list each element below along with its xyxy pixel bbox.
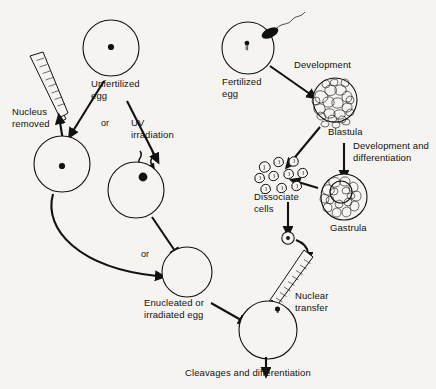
- label-cleavages-and-differentiation: Cleavages and differentiation: [185, 367, 311, 379]
- gastrula-cell-mass: [320, 174, 367, 220]
- arrow-uv-to-recipient: [152, 217, 175, 251]
- label-dissociate-cells: Dissociate cells: [254, 191, 299, 214]
- unfertilized-egg-cell: [83, 20, 139, 76]
- nucleus-dot: [108, 44, 114, 50]
- nucleus-dot: [59, 163, 65, 169]
- label-or-first: or: [101, 118, 109, 130]
- donor-cell: [282, 232, 294, 244]
- label-development: Development: [294, 59, 351, 71]
- label-gastrula: Gastrula: [330, 222, 367, 234]
- label-fertilized-egg: Fertilized egg: [222, 76, 262, 99]
- label-unfertilized-egg: Unfertilized egg: [91, 78, 140, 101]
- label-blastula: Blastula: [328, 126, 363, 138]
- reconstructed-egg-cell: [239, 301, 297, 359]
- diagram-canvas: [0, 0, 436, 389]
- enucleation-egg-cell: [34, 136, 90, 192]
- label-nuclear-transfer: Nuclear transfer: [295, 290, 328, 313]
- nucleus-dot: [286, 236, 290, 240]
- label-nucleus-removed: Nucleus removed: [12, 106, 50, 129]
- uv-irradiated-egg-cell: [108, 162, 164, 218]
- arrow-recipient-to-reconstructed: [211, 303, 241, 320]
- blastula-cell-mass: [312, 78, 357, 128]
- nucleus-dot: [245, 41, 250, 46]
- label-or-second: or: [141, 249, 149, 261]
- enucleated-irradiated-egg-cell: [162, 247, 212, 297]
- label-enucleated-irradiated-egg: Enucleated or irradiated egg: [144, 297, 204, 320]
- sperm-icon: [260, 12, 305, 41]
- nucleus-dot: [275, 307, 280, 312]
- label-development-and-differentiation: Development and differentiation: [353, 140, 429, 163]
- nuclear-transfer-diagram: Unfertilized egg Nucleus removed or UV i…: [0, 0, 436, 389]
- fertilized-egg-cell: [222, 22, 274, 74]
- nucleus-dot: [139, 173, 148, 182]
- dissociated-cells-group: [255, 157, 308, 194]
- label-uv-irradiation: UV irradiation: [131, 117, 174, 140]
